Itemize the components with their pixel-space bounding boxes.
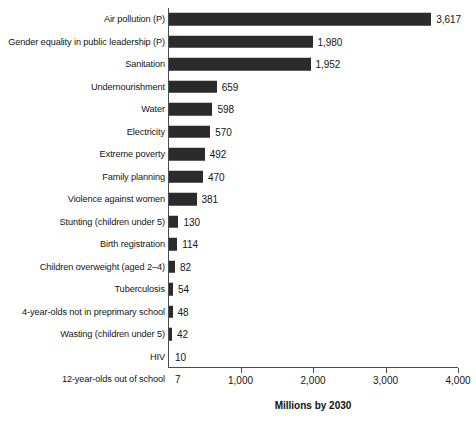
bar-row-label: 4-year-olds not in preprimary school [22,307,165,317]
bar-row-label: Children overweight (aged 2–4) [40,262,165,272]
bar-value-label: 42 [177,329,188,340]
bar [169,171,203,184]
bar-value-label: 381 [202,194,219,205]
bar-value-label: 570 [215,126,232,137]
x-axis-tick-label: 2,000 [300,375,325,387]
bar [169,283,173,296]
bar-row: Tuberculosis54 [0,278,476,301]
bar-track: 1,980 [169,31,476,54]
x-axis-tick-label: 1,000 [228,375,253,387]
bar-track: 598 [169,98,476,121]
bar-row: Children overweight (aged 2–4)82 [0,256,476,279]
bar-row: Stunting (children under 5)130 [0,211,476,234]
bar [169,148,205,161]
bar-value-label: 114 [182,239,198,250]
bar-row: Violence against women381 [0,188,476,211]
bar-track: 114 [169,233,476,256]
bar [169,193,197,206]
bar-track: 570 [169,121,476,144]
bar-rows: Air pollution (P)3,617Gender equality in… [0,8,476,391]
bar [169,216,178,229]
bar-row: 4-year-olds not in preprimary school48 [0,301,476,324]
bar-row-label: Violence against women [68,194,165,204]
bar-track: 492 [169,143,476,166]
x-axis-tick [386,368,387,373]
bar-track: 659 [169,76,476,99]
bar-row: HIV10 [0,346,476,369]
bar-track: 10 [169,346,476,369]
bar-track: 82 [169,256,476,279]
bar-value-label: 470 [208,171,225,182]
bar-row-label: Electricity [127,127,165,137]
bar-track: 381 [169,188,476,211]
bar-track: 54 [169,278,476,301]
bar-value-label: 130 [183,216,200,227]
bar-row-label: HIV [150,352,165,362]
x-axis-tick-label: 4,000 [445,375,470,387]
bar-row-label: Air pollution (P) [104,14,165,24]
bar-value-label: 659 [222,81,239,92]
bar-row-label: Wasting (children under 5) [60,329,165,339]
bar-value-label: 7 [175,374,181,385]
bar-row: Electricity570 [0,121,476,144]
bar-chart: Air pollution (P)3,617Gender equality in… [0,0,476,428]
y-axis-line [168,8,169,368]
bar-track: 1,952 [169,53,476,76]
bar-row-label: Gender equality in public leadership (P) [8,37,165,47]
bar-row: Undernourishment659 [0,76,476,99]
bar-row-label: Birth registration [100,239,165,249]
x-axis-tick-label: 3,000 [373,375,398,387]
bar-value-label: 3,617 [436,14,461,25]
bar-row-label: Stunting (children under 5) [59,217,165,227]
bar [169,328,172,341]
bar-value-label: 1,952 [316,59,341,70]
x-axis-title: Millions by 2030 [168,400,458,411]
bar-value-label: 598 [217,104,234,115]
bar-row-label: Undernourishment [91,82,165,92]
bar-row-label: Water [141,104,165,114]
bar [169,13,431,26]
bar-row-label: Extreme poverty [100,149,165,159]
bar-track: 42 [169,323,476,346]
bar-row: Wasting (children under 5)42 [0,323,476,346]
bar-track: 130 [169,211,476,234]
bar [169,306,173,319]
bar [169,58,311,71]
bar-track: 470 [169,166,476,189]
bar-row: Extreme poverty492 [0,143,476,166]
bar-row: Sanitation1,952 [0,53,476,76]
bar-track: 48 [169,301,476,324]
x-axis-tick [241,368,242,373]
bar-row: Water598 [0,98,476,121]
x-axis-tick [313,368,314,373]
bar-row: Family planning470 [0,166,476,189]
bar [169,238,177,251]
bar [169,81,217,94]
bar-row-label: Sanitation [125,59,165,69]
bar-row: Gender equality in public leadership (P)… [0,31,476,54]
bar-row: Birth registration114 [0,233,476,256]
bar-row-label: Family planning [102,172,165,182]
bar [169,103,212,116]
bar-row: Air pollution (P)3,617 [0,8,476,31]
bar-track: 3,617 [169,8,476,31]
bar [169,36,313,49]
bar-value-label: 1,980 [318,36,343,47]
bar-row-label: 12-year-olds out of school [62,374,165,384]
bar-value-label: 492 [210,149,227,160]
bar-value-label: 82 [180,261,191,272]
bar [169,261,175,274]
bar-row-label: Tuberculosis [114,284,165,294]
x-axis-tick [458,368,459,373]
bar [169,126,210,139]
bar-value-label: 10 [175,351,186,362]
bar-value-label: 48 [178,306,189,317]
bar-value-label: 54 [178,284,189,295]
